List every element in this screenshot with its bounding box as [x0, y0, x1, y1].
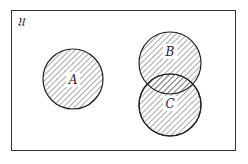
set-b-label: B [165, 45, 175, 59]
set-c-label: C [165, 97, 174, 111]
venn-diagram: 𝔘 A C B [0, 0, 248, 164]
set-a: A [43, 49, 103, 109]
set-b: B [139, 32, 201, 94]
set-a-label: A [68, 73, 78, 87]
